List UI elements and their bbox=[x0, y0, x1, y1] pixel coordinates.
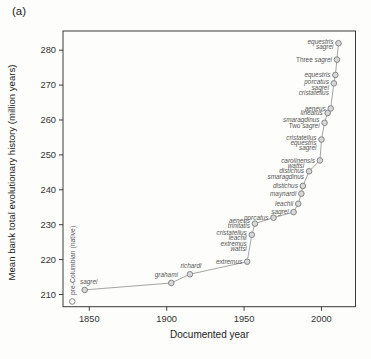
point-label: distichus bbox=[273, 182, 299, 189]
data-point-marker bbox=[333, 72, 339, 78]
point-label: trinitatis bbox=[228, 222, 251, 229]
point-label: sagrei bbox=[271, 208, 289, 216]
x-tick-label: 1950 bbox=[234, 314, 255, 324]
data-point-marker bbox=[331, 81, 337, 87]
data-point-marker bbox=[300, 183, 306, 189]
point-label: aeneus bbox=[305, 105, 327, 112]
point-label: richardi bbox=[180, 262, 202, 269]
y-tick-label: 270 bbox=[40, 80, 56, 90]
y-tick-label: 240 bbox=[40, 185, 56, 195]
data-point-marker bbox=[249, 232, 255, 238]
x-tick-label: 1850 bbox=[79, 314, 100, 324]
y-tick-label: 220 bbox=[40, 255, 56, 265]
data-point-marker bbox=[317, 158, 323, 164]
point-label: leachii bbox=[275, 200, 294, 207]
data-point-marker bbox=[295, 201, 301, 207]
data-point-marker bbox=[187, 271, 193, 277]
data-point-marker bbox=[328, 106, 334, 112]
y-tick-label: 230 bbox=[40, 220, 56, 230]
point-label: extremus bbox=[216, 258, 243, 265]
data-point-marker bbox=[336, 40, 342, 46]
y-tick-label: 250 bbox=[40, 150, 56, 160]
point-label: smaragdinus bbox=[267, 173, 304, 181]
point-label: carolinensis bbox=[281, 157, 316, 164]
data-point-marker bbox=[334, 57, 340, 63]
point-label: maynardi bbox=[270, 190, 297, 198]
evolutionary-history-chart: 1850190019502000210220230240250260270280… bbox=[0, 0, 371, 359]
point-label: sagrei bbox=[299, 144, 317, 152]
point-label: Three sagrei bbox=[296, 56, 332, 64]
point-label: sagrei bbox=[80, 278, 98, 286]
point-label: grahami bbox=[155, 271, 179, 279]
native-point-marker bbox=[69, 299, 75, 305]
x-tick-label: 2000 bbox=[311, 314, 332, 324]
data-point-marker bbox=[322, 120, 328, 126]
y-tick-label: 260 bbox=[40, 115, 56, 125]
point-label: pre-Columbian (native) bbox=[69, 226, 77, 295]
data-point-marker bbox=[252, 221, 258, 227]
data-point-marker bbox=[271, 215, 277, 221]
y-tick-label: 280 bbox=[40, 45, 56, 55]
data-point-marker bbox=[306, 168, 312, 174]
x-axis-title: Documented year bbox=[63, 329, 356, 340]
data-point-marker bbox=[244, 259, 250, 265]
y-axis-title: Mean bank total evolutionary history (mi… bbox=[6, 33, 17, 313]
point-label: cristatellus bbox=[299, 89, 330, 96]
data-point-marker bbox=[82, 287, 88, 293]
point-label: porcatus bbox=[243, 214, 269, 222]
figure-panel: (a) 185019001950200021022023024025026027… bbox=[0, 0, 371, 359]
data-point-marker bbox=[299, 191, 305, 197]
data-point-marker bbox=[291, 209, 297, 215]
point-label: equestris bbox=[304, 71, 331, 79]
x-tick-label: 1900 bbox=[156, 314, 177, 324]
data-point-marker bbox=[319, 137, 325, 143]
point-label: wattsi bbox=[230, 245, 247, 252]
y-tick-label: 210 bbox=[40, 290, 56, 300]
point-label: sagrei bbox=[316, 43, 334, 51]
point-label: Two sagrei bbox=[289, 122, 320, 130]
data-point-marker bbox=[169, 280, 175, 286]
